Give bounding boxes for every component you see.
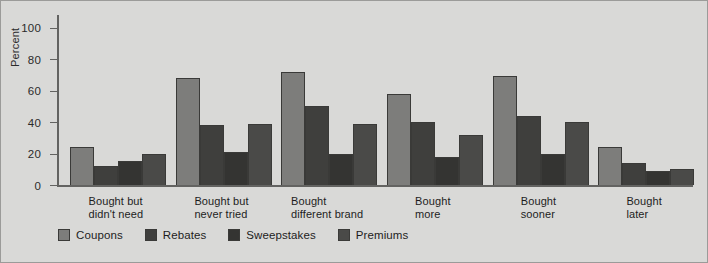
- y-axis-tick: 100: [50, 28, 59, 29]
- bar: [622, 163, 646, 185]
- y-axis-tick: 40: [50, 122, 59, 123]
- bar: [493, 76, 517, 185]
- x-axis-line: [57, 185, 693, 187]
- x-axis-label-line: more: [415, 208, 450, 221]
- bar-group: [387, 15, 483, 185]
- plot-area: 020406080100 Bought butdidn't needBought…: [57, 15, 693, 187]
- bar: [70, 147, 94, 185]
- x-axis-group-label: Bought butnever tried: [194, 195, 248, 220]
- bar-group: [176, 15, 272, 185]
- bar: [598, 147, 622, 185]
- x-axis-label-line: Bought but: [194, 195, 248, 208]
- bar: [118, 161, 142, 185]
- legend-item[interactable]: Premiums: [338, 229, 409, 241]
- x-axis-label-line: sooner: [521, 208, 556, 221]
- x-axis-group-label: Bought butdidn't need: [89, 195, 144, 220]
- bar: [176, 78, 200, 185]
- legend-swatch-icon: [145, 229, 157, 241]
- y-axis-tick: 80: [50, 59, 59, 60]
- legend-label: Coupons: [76, 229, 123, 241]
- bar-chart: Percent 020406080100 Bought butdidn't ne…: [0, 0, 708, 263]
- bar: [94, 166, 118, 185]
- y-axis-tick-label: 100: [21, 22, 41, 34]
- legend-swatch-icon: [58, 229, 70, 241]
- legend-item[interactable]: Rebates: [145, 229, 207, 241]
- y-axis-tick: 60: [50, 91, 59, 92]
- y-axis-tick-label: 20: [28, 148, 41, 160]
- x-axis-group-label: Boughtsooner: [521, 195, 556, 220]
- x-axis-label-line: Bought: [521, 195, 556, 208]
- x-axis-label-line: later: [626, 208, 661, 221]
- x-axis-label-line: Bought: [415, 195, 450, 208]
- bar: [305, 106, 329, 185]
- bar: [670, 169, 694, 185]
- bar: [248, 124, 272, 185]
- x-axis-label-line: Bought: [626, 195, 661, 208]
- x-axis-label-line: never tried: [194, 208, 248, 221]
- legend-label: Rebates: [163, 229, 207, 241]
- y-axis-tick-label: 80: [28, 54, 41, 66]
- bar: [459, 135, 483, 185]
- legend-label: Sweepstakes: [246, 229, 316, 241]
- legend-label: Premiums: [356, 229, 409, 241]
- x-axis-group-label: Boughtmore: [415, 195, 450, 220]
- bar: [387, 94, 411, 185]
- y-axis-tick-label: 0: [34, 180, 41, 192]
- bar: [411, 122, 435, 185]
- bar-group: [493, 15, 589, 185]
- x-axis-group-label: Boughtlater: [626, 195, 661, 220]
- y-axis-tick-label: 40: [28, 117, 41, 129]
- bar: [517, 116, 541, 185]
- legend-item[interactable]: Coupons: [58, 229, 123, 241]
- y-axis-tick: 0: [50, 185, 59, 186]
- x-axis-group-label: Boughtdifferent brand: [291, 195, 363, 220]
- y-axis-title: Percent: [9, 28, 21, 67]
- bar: [329, 154, 353, 185]
- x-axis-label-line: Bought but: [89, 195, 144, 208]
- bar: [565, 122, 589, 185]
- bar: [541, 154, 565, 185]
- x-axis-label-line: Bought: [291, 195, 363, 208]
- bar: [200, 125, 224, 185]
- bar: [224, 152, 248, 185]
- bar-group: [281, 15, 377, 185]
- bar-group: [70, 15, 166, 185]
- bar: [435, 157, 459, 185]
- bar: [646, 171, 670, 185]
- x-axis-label-line: didn't need: [89, 208, 144, 221]
- legend-swatch-icon: [338, 229, 350, 241]
- bars-layer: [59, 15, 693, 185]
- bar: [353, 124, 377, 185]
- bar: [142, 154, 166, 185]
- chart-legend: CouponsRebatesSweepstakesPremiums: [58, 229, 430, 241]
- y-axis-tick: 20: [50, 154, 59, 155]
- bar: [281, 72, 305, 185]
- legend-swatch-icon: [228, 229, 240, 241]
- y-axis-tick-label: 60: [28, 85, 41, 97]
- x-axis-label-line: different brand: [291, 208, 363, 221]
- bar-group: [598, 15, 694, 185]
- legend-item[interactable]: Sweepstakes: [228, 229, 316, 241]
